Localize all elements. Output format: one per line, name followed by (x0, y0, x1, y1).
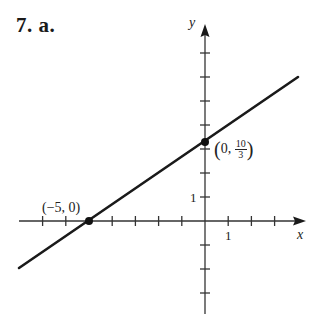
y-axis (200, 30, 210, 314)
coordinate-graph (0, 0, 326, 324)
x-tick-label-one: 1 (225, 228, 232, 244)
y-axis-label: y (189, 15, 195, 31)
point-label-x-intercept: (−5, 0) (42, 200, 80, 216)
point-y-intercept (201, 138, 209, 146)
x-axis (19, 216, 300, 226)
point-label-y-intercept: (0, 10 3 ) (214, 138, 253, 161)
y-tick-label-one: 1 (190, 190, 197, 206)
x-axis-label: x (297, 227, 303, 243)
plotted-line (19, 77, 298, 268)
point-x-intercept (85, 217, 93, 225)
point-label-prefix: 0, (221, 141, 232, 156)
fraction-ten-thirds: 10 3 (235, 139, 247, 160)
